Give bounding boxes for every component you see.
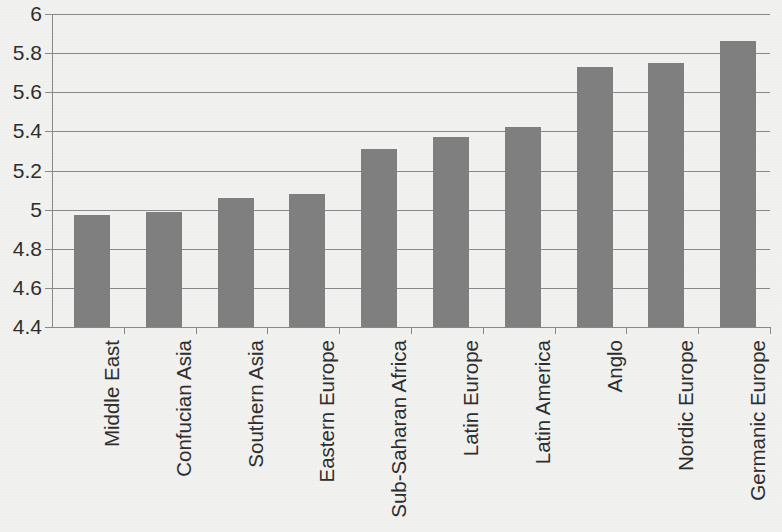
x-axis-category-label: Southern Asia [246,340,267,468]
y-axis-tick-label: 5.2 [0,160,42,181]
bar [289,194,325,327]
bar [433,137,469,327]
x-axis-tick [267,327,268,334]
y-axis-tick [45,210,52,211]
bar-series [52,14,770,327]
x-axis-category-label: Confucian Asia [174,340,195,477]
x-axis-tick [770,327,771,334]
x-axis-tick [124,327,125,334]
y-axis-tick [45,249,52,250]
x-axis-category-label: Anglo [605,340,626,392]
y-axis-tick-label: 5.6 [0,81,42,102]
y-axis-tick-label: 4.8 [0,238,42,259]
x-axis-category-label: Latin America [533,340,554,464]
x-axis-category-label: Nordic Europe [676,340,697,471]
bar-chart: 65.85.65.45.254.84.64.4 Middle EastConfu… [0,0,782,532]
y-axis-tick-label: 5 [0,199,42,220]
bar [218,198,254,327]
x-axis-category-label: Eastern Europe [317,340,338,482]
y-axis-tick [45,131,52,132]
bar [577,67,613,327]
bar [74,215,110,327]
bar [146,212,182,327]
y-axis-tick-label: 6 [0,3,42,24]
y-axis-tick [45,171,52,172]
y-axis-tick-label: 4.4 [0,316,42,337]
x-axis-tick [698,327,699,334]
x-axis-tick [483,327,484,334]
x-axis-tick [555,327,556,334]
bar [648,63,684,327]
x-axis-category-label: Latin Europe [461,340,482,456]
y-axis-tick [45,14,52,15]
y-axis-tick [45,327,52,328]
bar [505,127,541,327]
x-axis-tick [626,327,627,334]
x-axis-category-label: Sub-Saharan Africa [389,340,410,518]
y-axis-tick [45,288,52,289]
bar [720,41,756,327]
x-axis-category-label: Germanic Europe [748,340,769,501]
x-axis-tick [411,327,412,334]
x-axis-tick [339,327,340,334]
y-axis-tick-label: 4.6 [0,277,42,298]
y-axis-tick-label: 5.8 [0,42,42,63]
bar [361,149,397,327]
y-axis-tick-label: 5.4 [0,120,42,141]
x-axis-category-label: Middle East [102,340,123,447]
y-axis-tick [45,92,52,93]
x-axis-tick [196,327,197,334]
y-axis-tick [45,53,52,54]
